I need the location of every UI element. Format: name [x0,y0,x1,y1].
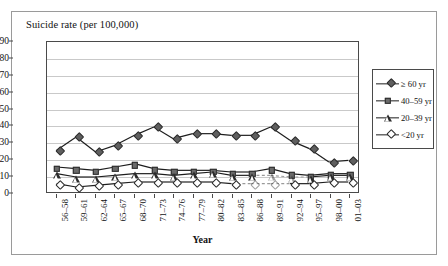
x-tick-mark [349,194,350,198]
y-tick-label: 80 [0,53,9,63]
y-tick-mark [9,176,13,177]
x-tick-mark [75,194,76,198]
y-tick-label: 20 [0,154,9,164]
chart-figure: Suicide rate (per 100,000) 0102030405060… [11,11,437,255]
y-tick-mark [9,193,13,194]
legend-swatch-lt20 [376,129,399,141]
x-tick-label: 86–88 [255,199,265,222]
data-point-marker [93,169,99,175]
y-tick-mark [9,159,13,160]
x-tick-label: 83–85 [236,199,246,222]
x-tick-mark [271,194,272,198]
x-tick-label: 98–00 [334,199,344,222]
data-point-marker [53,172,61,179]
x-tick-mark [95,194,96,198]
y-tick-mark [9,91,13,92]
x-tick-mark [173,194,174,198]
diamond-open-icon [386,128,395,137]
y-tick-mark [9,142,13,143]
data-point-marker [54,165,60,171]
legend-item-a2039: 20–39 yr [376,109,430,126]
chart-legend: ≥ 60 yr40–59 yr20–39 yr<20 yr [372,69,434,149]
legend-label-lt20: <20 yr [399,130,424,140]
x-tick-label: 92–94 [295,199,305,222]
x-tick-label: 89–91 [275,199,285,222]
y-tick-label: 50 [0,104,9,114]
y-tick-label: 70 [0,70,9,80]
x-tick-label: 01–03 [353,199,363,222]
y-tick-label: 90 [0,36,9,46]
x-tick-mark [114,194,115,198]
data-point-marker [73,167,79,173]
y-tick-label: 30 [0,137,9,147]
x-tick-mark [134,194,135,198]
legend-swatch-a4059 [376,95,399,107]
y-tick-mark [9,74,13,75]
diamond-filled-icon [386,77,395,86]
y-axis: 0102030405060708090 [12,12,46,194]
y-tick-label: 10 [0,171,9,181]
legend-item-a4059: 40–59 yr [376,92,430,109]
legend-label-ge60: ≥ 60 yr [399,79,426,89]
x-tick-label: 95–97 [314,199,324,222]
legend-item-lt20: <20 yr [376,126,430,143]
x-tick-mark [291,194,292,198]
y-tick-mark [9,57,13,58]
x-tick-label: 74–76 [177,199,187,222]
x-tick-label: 68–70 [138,199,148,222]
legend-item-ge60: ≥ 60 yr [376,75,430,92]
x-tick-label: 80–82 [216,199,226,222]
legend-label-a4059: 40–59 yr [399,96,432,106]
x-tick-mark [154,194,155,198]
y-tick-mark [9,108,13,109]
legend-swatch-ge60 [376,78,399,90]
x-tick-mark [232,194,233,198]
legend-label-a2039: 20–39 yr [399,113,432,123]
y-tick-mark [9,125,13,126]
x-tick-label: 62–64 [99,199,109,222]
square-filled-icon [384,97,390,103]
data-point-marker [112,165,118,171]
data-point-marker [132,162,138,168]
x-tick-label: 71–73 [158,199,168,222]
x-tick-label: 59–61 [79,199,89,222]
y-tick-label: 60 [0,87,9,97]
data-point-marker [269,167,275,173]
triangle-open-icon [384,114,392,121]
x-tick-mark [310,194,311,198]
data-point-marker [72,175,80,182]
x-tick-label: 77–79 [197,199,207,222]
x-tick-label: 56–58 [60,199,70,222]
x-tick-mark [330,194,331,198]
x-tick-mark [212,194,213,198]
y-tick-mark [9,41,13,42]
data-point-marker [209,170,217,177]
x-tick-mark [56,194,57,198]
x-axis-title: Year [46,234,359,245]
plot-area [46,41,359,193]
legend-swatch-a2039 [376,112,399,124]
x-tick-label: 65–67 [118,199,128,222]
y-tick-label: 40 [0,120,9,130]
x-tick-mark [251,194,252,198]
x-tick-mark [193,194,194,198]
